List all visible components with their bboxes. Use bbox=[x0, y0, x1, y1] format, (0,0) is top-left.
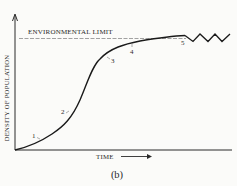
point-tick-3 bbox=[107, 57, 110, 59]
y-axis-label: DENSITY OF POPULATION bbox=[3, 55, 10, 142]
population-curve bbox=[15, 36, 185, 151]
point-label-3: 3 bbox=[111, 57, 115, 65]
logistic-growth-diagram: DENSITY OF POPULATION ENVIRONMENTAL LIMI… bbox=[0, 0, 237, 186]
point-label-5: 5 bbox=[181, 39, 185, 47]
point-tick-1 bbox=[37, 138, 40, 140]
point-label-1: 1 bbox=[32, 132, 36, 140]
point-tick-2 bbox=[66, 111, 69, 113]
oscillation-zigzag bbox=[185, 34, 230, 42]
x-axis-label: TIME bbox=[96, 153, 114, 160]
environmental-limit-label: ENVIRONMENTAL LIMIT bbox=[28, 28, 113, 36]
figure-caption: (b) bbox=[111, 169, 124, 181]
point-label-2: 2 bbox=[61, 108, 65, 116]
time-arrow-head-icon bbox=[147, 154, 152, 159]
point-label-4: 4 bbox=[130, 48, 134, 56]
